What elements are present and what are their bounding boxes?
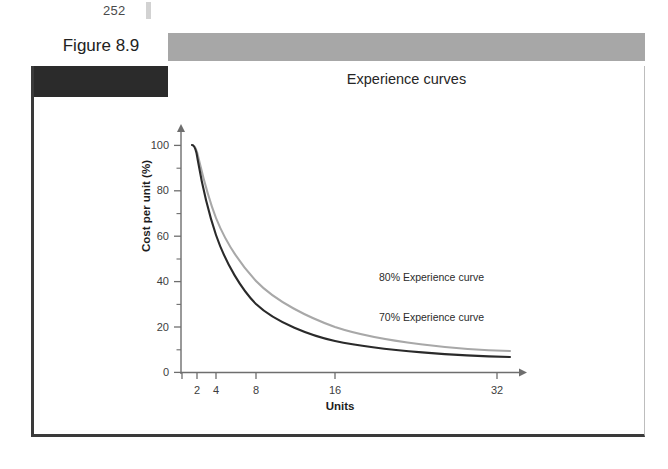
page-rule-marker (146, 2, 151, 19)
figure-banner-gray (168, 33, 645, 61)
figure-caption: Figure 8.9 (36, 36, 166, 56)
y-tick-label-60: 60 (139, 230, 169, 242)
x-axis-title: Units (280, 400, 400, 412)
curve-label-70: 70% Experience curve (379, 311, 484, 323)
page-number: 252 (103, 3, 126, 18)
y-tick-label-80: 80 (139, 184, 169, 196)
y-axis-title: Cost per unit (%) (140, 146, 152, 266)
curve-label-80: 80% Experience curve (379, 271, 484, 283)
y-tick-label-100: 100 (139, 139, 169, 151)
x-tick-label-16: 16 (322, 384, 348, 396)
y-tick-label-20: 20 (139, 321, 169, 333)
x-tick-label-32: 32 (484, 384, 510, 396)
x-tick-label-8: 8 (243, 384, 269, 396)
y-tick-label-0: 0 (139, 366, 169, 378)
chart-title: Experience curves (168, 71, 645, 87)
figure-box (31, 66, 645, 437)
y-tick-label-40: 40 (139, 275, 169, 287)
x-tick-label-4: 4 (203, 384, 229, 396)
